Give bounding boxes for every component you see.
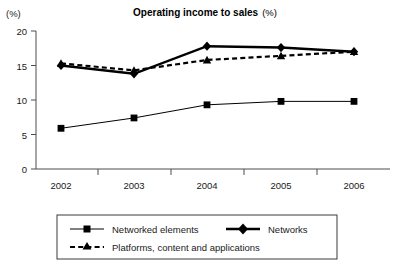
x-tick-label-2003: 2003 [123,180,144,191]
y-tick-label-15: 15 [16,61,27,72]
chart-title-unit: (%) [262,7,277,18]
y-axis-unit-label: (%) [6,8,21,19]
legend-label-networked-elements: Networked elements [112,224,199,235]
square-marker-icon [131,115,138,122]
x-tick-label-2002: 2002 [50,180,71,191]
chart-title-main: Operating income to sales [133,7,258,18]
square-marker-icon [204,101,211,108]
y-tick-label-0: 0 [22,164,27,175]
x-tick-label-2006: 2006 [343,180,364,191]
square-marker-icon [278,98,285,105]
chart-page: (%) Operating income to sales(%) 20 15 1… [0,0,397,265]
x-tick-label-2005: 2005 [270,180,291,191]
legend-label-networks: Networks [268,224,308,235]
x-tick-label-2004: 2004 [196,180,217,191]
legend-label-platforms: Platforms, content and applications [112,242,260,253]
y-tick-label-10: 10 [16,95,27,106]
square-marker-icon [351,98,358,105]
square-marker-icon [84,226,91,233]
square-marker-icon [58,125,65,132]
y-tick-label-20: 20 [16,26,27,37]
page-title: Operating income to sales(%) [133,7,277,18]
operating-income-line-chart: (%) Operating income to sales(%) 20 15 1… [0,0,397,265]
y-tick-label-5: 5 [22,130,27,141]
